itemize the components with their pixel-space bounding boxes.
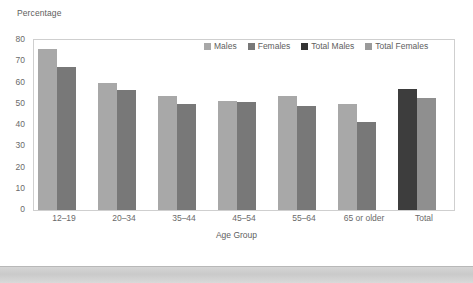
bar [177,104,196,210]
y-axis-tick-label: 50 [16,98,25,108]
legend-swatch-icon [248,43,255,50]
bar [57,67,76,210]
legend-item: Males [204,41,237,51]
x-axis-title: Age Group [0,230,473,240]
bar [158,96,177,210]
y-axis-tick-labels: 80706050403020100 [0,39,30,211]
bar-group [394,40,454,210]
bottom-band [0,267,473,283]
legend-label: Total Males [311,41,354,51]
chart-legend: MalesFemalesTotal MalesTotal Females [204,41,428,51]
legend-label: Total Females [375,41,428,51]
bar-group [34,40,94,210]
bar [218,101,237,210]
bar [117,90,136,210]
y-axis-tick-label: 60 [16,77,25,87]
y-axis-title: Percentage [17,8,61,18]
x-axis-tick-label: 65 or older [344,213,385,223]
x-axis-tick-label: 20–34 [112,213,136,223]
x-axis-tick-label: 35–44 [172,213,196,223]
x-axis-tick-label: 45–54 [232,213,256,223]
bar [297,106,316,210]
legend-item: Total Males [301,41,354,51]
x-axis-tick-label: Total [415,213,433,223]
legend-item: Females [248,41,291,51]
y-axis-tick-label: 0 [20,204,25,214]
bar-series-layer [34,40,454,210]
y-axis-tick-label: 30 [16,140,25,150]
y-axis-tick-label: 80 [16,34,25,44]
legend-swatch-icon [204,43,211,50]
bar [237,102,256,210]
bar-group [154,40,214,210]
bar [398,89,417,210]
chart-figure: Percentage 80706050403020100 12–1920–343… [0,0,473,283]
bar [38,49,57,211]
bar [278,96,297,210]
legend-label: Males [214,41,237,51]
bar-group [214,40,274,210]
x-axis-tick-label: 12–19 [52,213,76,223]
y-axis-tick-label: 20 [16,162,25,172]
legend-swatch-icon [301,43,308,50]
legend-item: Total Females [365,41,428,51]
legend-label: Females [258,41,291,51]
x-axis-tick-labels: 12–1920–3435–4445–5455–6465 or olderTota… [34,213,454,227]
bar-group [274,40,334,210]
bar [357,122,376,210]
x-axis-tick-label: 55–64 [292,213,316,223]
bar-group [334,40,394,210]
bar-group [94,40,154,210]
bar [338,104,357,210]
y-axis-tick-label: 10 [16,183,25,193]
y-axis-tick-label: 40 [16,119,25,129]
y-axis-tick-label: 70 [16,55,25,65]
bar [417,98,436,210]
legend-swatch-icon [365,43,372,50]
bar [98,83,117,211]
